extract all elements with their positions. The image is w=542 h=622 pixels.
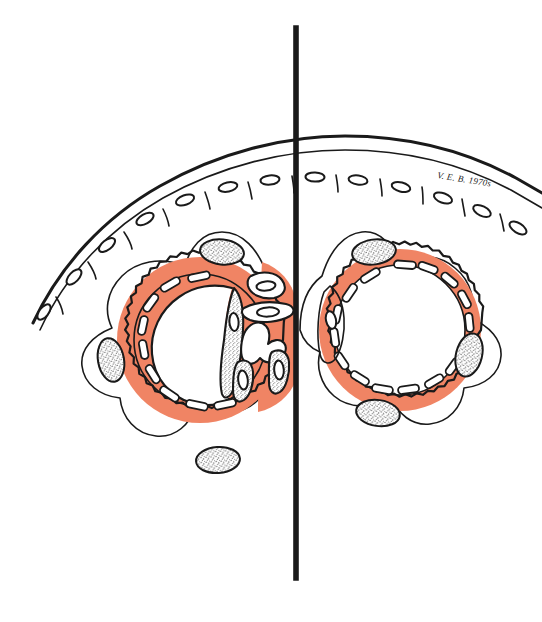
illustration-canvas: V. E. B. 1970s bbox=[0, 0, 542, 622]
anatomical-illustration: V. E. B. 1970s bbox=[0, 0, 542, 622]
